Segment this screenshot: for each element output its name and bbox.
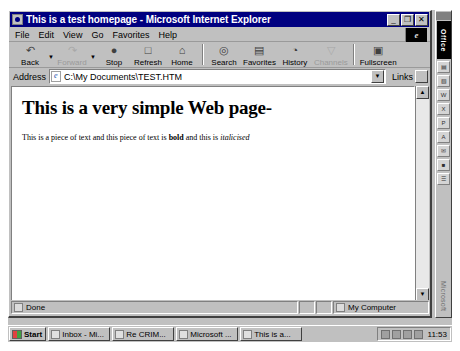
menu-item-edit[interactable]: Edit bbox=[39, 30, 55, 40]
clock[interactable]: 11:53 bbox=[428, 330, 447, 339]
menu-item-file[interactable]: File bbox=[15, 30, 30, 40]
ie-document-icon bbox=[243, 330, 252, 339]
paragraph-text-2: and this is bbox=[184, 133, 220, 142]
title-bar[interactable]: This is a test homepage - Microsoft Inte… bbox=[10, 12, 429, 27]
toolbar-button-channels[interactable]: ▽ Channels bbox=[312, 43, 350, 67]
vertical-scrollbar[interactable]: ▲ ▼ bbox=[415, 86, 429, 301]
scrollbar-track[interactable] bbox=[416, 99, 429, 288]
history-globe-icon: ◔ bbox=[287, 44, 302, 57]
ie-document-icon bbox=[12, 14, 23, 25]
menu-bar: File Edit View Go Favorites Help e bbox=[9, 28, 430, 42]
favorites-folder-icon: ▤ bbox=[252, 44, 267, 57]
fullscreen-icon: ▣ bbox=[371, 44, 386, 57]
toolbar-button-refresh[interactable]: □ Refresh bbox=[131, 43, 165, 67]
address-dropdown-button[interactable]: ▼ bbox=[371, 70, 384, 83]
window-controls: _ ❐ ✕ bbox=[387, 14, 428, 26]
status-page-icon bbox=[14, 303, 23, 312]
restore-button[interactable]: ❐ bbox=[401, 14, 414, 26]
toolbar-label-refresh: Refresh bbox=[134, 58, 162, 67]
ie-logo-glyph: e bbox=[415, 30, 419, 40]
toolbar: ↶ Back ▼ ↷ Forward ▼ ● Stop □ Refresh bbox=[9, 42, 430, 68]
display-icon[interactable] bbox=[392, 330, 401, 339]
scroll-up-arrow-icon[interactable]: ▲ bbox=[416, 86, 429, 99]
new-office-document-icon[interactable]: ▤ bbox=[437, 61, 450, 73]
toolbar-button-fullscreen[interactable]: ▣ Fullscreen bbox=[358, 43, 399, 67]
window-title: This is a test homepage - Microsoft Inte… bbox=[26, 14, 387, 25]
menu-item-help[interactable]: Help bbox=[158, 30, 177, 40]
taskbar-item-microsoft[interactable]: Microsoft ... bbox=[176, 327, 238, 341]
close-button[interactable]: ✕ bbox=[415, 14, 428, 26]
page-title: This is a very simple Web page- bbox=[22, 97, 404, 119]
modem-icon[interactable] bbox=[403, 330, 412, 339]
taskbar-item-this-is-a[interactable]: This is a... bbox=[240, 327, 302, 341]
office-bar-handle[interactable] bbox=[436, 12, 451, 20]
status-bar: Done My Computer bbox=[11, 300, 429, 314]
start-button[interactable]: Start bbox=[9, 327, 46, 341]
stop-icon: ● bbox=[107, 44, 122, 57]
open-office-document-icon[interactable]: ▧ bbox=[437, 75, 450, 87]
browser-window: This is a test homepage - Microsoft Inte… bbox=[8, 10, 432, 318]
toolbar-label-forward: Forward bbox=[57, 58, 86, 67]
address-label: Address bbox=[13, 72, 46, 82]
back-dropdown-arrow[interactable]: ▼ bbox=[47, 54, 55, 60]
bookshelf-icon[interactable]: ☰ bbox=[437, 173, 450, 185]
toolbar-label-favorites: Favorites bbox=[243, 58, 276, 67]
menu-item-view[interactable]: View bbox=[63, 30, 82, 40]
page-paragraph: This is a piece of text and this piece o… bbox=[22, 133, 404, 143]
computer-icon bbox=[336, 303, 345, 312]
toolbar-label-history: History bbox=[282, 58, 307, 67]
start-button-label: Start bbox=[24, 330, 42, 339]
forward-dropdown-arrow[interactable]: ▼ bbox=[89, 54, 97, 60]
paragraph-text-1: This is a piece of text and this piece o… bbox=[22, 133, 169, 142]
toolbar-button-home[interactable]: ⌂ Home bbox=[165, 43, 199, 67]
toolbar-button-back[interactable]: ↶ Back bbox=[13, 43, 47, 67]
toolbar-separator bbox=[202, 44, 204, 65]
binder-icon[interactable]: ■ bbox=[437, 159, 450, 171]
word-icon[interactable]: W bbox=[437, 89, 450, 101]
powerpoint-icon[interactable]: P bbox=[437, 117, 450, 129]
volume-icon[interactable] bbox=[381, 330, 390, 339]
office-shortcut-bar: Office ▤ ▧ W X P A ✉ ■ ☰ Microsoft bbox=[435, 10, 452, 318]
taskbar-item-label-microsoft: Microsoft ... bbox=[190, 330, 231, 339]
toolbar-button-forward[interactable]: ↷ Forward bbox=[55, 43, 89, 67]
status-message: Done bbox=[26, 303, 45, 312]
minimize-button[interactable]: _ bbox=[387, 14, 400, 26]
address-input[interactable]: C:\My Documents\TEST.HTM ▼ bbox=[49, 69, 386, 84]
access-icon[interactable]: A bbox=[437, 131, 450, 143]
screen: This is a test homepage - Microsoft Inte… bbox=[0, 0, 460, 351]
taskbar-item-re-crim[interactable]: Re CRIM... bbox=[112, 327, 174, 341]
links-toolbar-handle[interactable] bbox=[415, 70, 428, 83]
status-pane-1 bbox=[299, 301, 315, 314]
office-bar-title-text: Office bbox=[440, 29, 447, 52]
toolbar-button-history[interactable]: ◔ History bbox=[278, 43, 312, 67]
toolbar-label-home: Home bbox=[171, 58, 192, 67]
back-arrow-icon: ↶ bbox=[23, 44, 38, 57]
menu-item-favorites[interactable]: Favorites bbox=[112, 30, 149, 40]
toolbar-button-favorites[interactable]: ▤ Favorites bbox=[241, 43, 278, 67]
links-label[interactable]: Links bbox=[392, 72, 413, 82]
taskbar-item-label-inbox: Inbox - Mi... bbox=[62, 330, 104, 339]
channels-icon: ▽ bbox=[323, 44, 338, 57]
office-bar-footer: Microsoft bbox=[440, 281, 447, 311]
outlook-icon[interactable]: ✉ bbox=[437, 145, 450, 157]
word-document-icon bbox=[179, 330, 188, 339]
taskbar: Start Inbox - Mi... Re CRIM... Microsoft… bbox=[8, 325, 452, 342]
mail-message-icon bbox=[115, 330, 124, 339]
toolbar-button-search[interactable]: ◎ Search bbox=[207, 43, 241, 67]
desktop: This is a test homepage - Microsoft Inte… bbox=[8, 10, 452, 342]
paragraph-italic-text: italicised bbox=[220, 133, 249, 142]
mail-icon[interactable] bbox=[414, 330, 423, 339]
status-pane-2 bbox=[316, 301, 332, 314]
toolbar-button-stop[interactable]: ● Stop bbox=[97, 43, 131, 67]
address-value: C:\My Documents\TEST.HTM bbox=[64, 72, 370, 82]
office-bar-title: Office bbox=[437, 21, 451, 59]
menu-item-go[interactable]: Go bbox=[91, 30, 103, 40]
page-area: This is a very simple Web page- This is … bbox=[11, 86, 429, 301]
mail-inbox-icon bbox=[51, 330, 60, 339]
status-zone-label: My Computer bbox=[348, 303, 396, 312]
ie-brand-logo: e bbox=[405, 28, 427, 42]
address-bar: Address C:\My Documents\TEST.HTM ▼ Links bbox=[9, 68, 430, 85]
taskbar-item-inbox[interactable]: Inbox - Mi... bbox=[48, 327, 110, 341]
excel-icon[interactable]: X bbox=[437, 103, 450, 115]
home-icon: ⌂ bbox=[175, 44, 190, 57]
